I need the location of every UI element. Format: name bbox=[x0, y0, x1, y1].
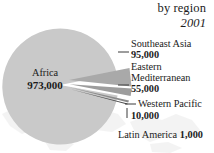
slice-value-latin-america: 1,000 bbox=[180, 129, 203, 140]
slice-value-southeast-asia: 95,000 bbox=[131, 50, 159, 61]
slice-label-africa: Africa 973,000 bbox=[6, 67, 84, 92]
slice-value-eastern-mediterranean: 55,000 bbox=[131, 84, 159, 95]
slice-name-southeast-asia: Southeast Asia bbox=[131, 39, 191, 50]
slice-name-africa: Africa bbox=[6, 67, 84, 79]
slice-name-eastern-mediterranean-line1: Eastern bbox=[131, 62, 162, 73]
slice-name-eastern-mediterranean-line2: Mediterranean bbox=[131, 73, 190, 84]
chart-year: 2001 bbox=[0, 17, 206, 30]
pie-chart-figure: by region 2001 Africa 973,000 Southeast … bbox=[0, 0, 214, 153]
slice-name-western-pacific: Western Pacific bbox=[138, 99, 202, 110]
slice-name-latin-america: Latin America bbox=[118, 129, 177, 140]
slice-label-latin-america: Latin America 1,000 bbox=[118, 130, 203, 141]
slice-value-africa: 973,000 bbox=[6, 79, 84, 92]
slice-value-western-pacific: 10,000 bbox=[131, 111, 159, 122]
chart-title: by region bbox=[0, 2, 206, 15]
